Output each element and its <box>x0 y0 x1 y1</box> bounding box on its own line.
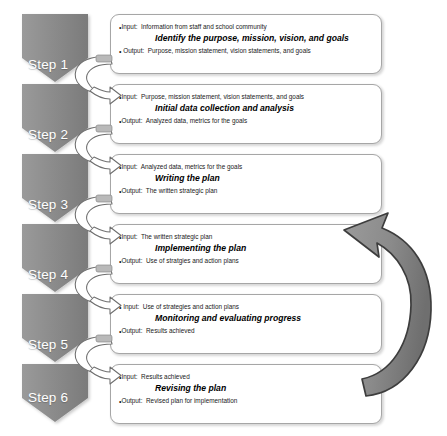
step-label-3: Step 3 <box>28 197 68 212</box>
step-label-2: Step 2 <box>28 127 68 142</box>
step-label-1: Step 1 <box>28 57 68 72</box>
step-label-6: Step 6 <box>28 390 68 405</box>
step-labels: Step 1 Step 2 Step 3 Step 4 Step 5 Step … <box>0 0 447 436</box>
step-label-4: Step 4 <box>28 267 68 282</box>
step-label-5: Step 5 <box>28 337 68 352</box>
process-diagram: Step 1 Step 2 Step 3 Step 4 Step 5 Step … <box>0 0 447 436</box>
